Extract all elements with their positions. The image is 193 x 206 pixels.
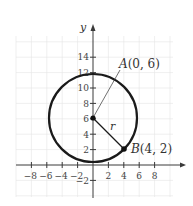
y-tick-label: 10 (78, 83, 90, 93)
x-tick-label: 4 (121, 171, 127, 181)
y-tick-label: 14 (78, 52, 90, 62)
y-axis-label: y (79, 21, 87, 34)
point-b (121, 146, 127, 152)
radius-label: r (110, 120, 116, 133)
x-tick-label: 2 (106, 171, 112, 181)
x-tick-label: −4 (55, 171, 69, 181)
x-axis-arrow-icon (180, 163, 186, 168)
center-point-a (90, 115, 95, 120)
y-axis-arrow-icon (91, 24, 96, 31)
y-tick-label: 8 (83, 99, 89, 109)
y-tick-label: 4 (83, 130, 89, 140)
circle-diagram: y −8 −6 −4 −2 2 4 6 8 −2 2 4 6 8 10 12 (0, 0, 193, 206)
y-tick-label: 2 (83, 145, 89, 155)
x-tick-label: 8 (152, 171, 158, 181)
point-b-label: B(4, 2) (130, 142, 172, 156)
x-tick-label: −6 (39, 171, 53, 181)
x-tick-label: 6 (136, 171, 142, 181)
y-tick-label: −2 (76, 176, 89, 186)
x-tick-label: −8 (24, 171, 38, 181)
y-tick-label: 6 (83, 114, 89, 124)
center-label: A(0, 6) (118, 57, 160, 71)
